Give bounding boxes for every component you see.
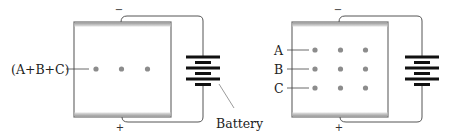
row-label-c: C [274,81,284,96]
battery-label: Battery [216,116,264,131]
row-label-b: B [274,62,283,77]
battery-icon-left [186,56,220,87]
combined-sample-label: (A+B+C) [11,62,69,77]
positive-sign-left: + [116,122,124,133]
battery-icon-right [405,56,439,87]
anode-band [75,112,171,116]
left-panel: − + (A+B+C) Battery [11,4,264,133]
negative-sign-left: − [115,4,123,15]
negative-sign-right: − [334,4,342,15]
electrophoresis-diagram: − + (A+B+C) Battery − [0,0,451,139]
cathode-band [75,23,171,27]
cathode-band [293,23,388,27]
battery-pointer [219,84,234,108]
row-label-a: A [273,43,284,58]
positive-sign-right: + [335,122,343,133]
right-panel: − + A B C [273,4,439,133]
anode-band [293,112,388,116]
